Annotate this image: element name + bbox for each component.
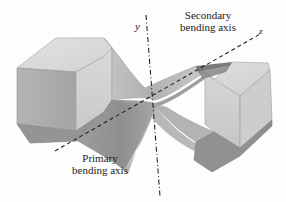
left-block-left-face bbox=[17, 68, 76, 131]
primary-bending-axis-label-line1: Primary bbox=[52, 152, 148, 164]
figure-container: Secondary bending axis Primary bending a… bbox=[0, 0, 286, 202]
secondary-bending-axis-label-line2: bending axis bbox=[160, 21, 256, 33]
primary-bending-axis-label: Primary bending axis bbox=[52, 152, 148, 177]
secondary-bending-axis-label: Secondary bending axis bbox=[160, 9, 256, 34]
secondary-bending-axis-label-line1: Secondary bbox=[160, 9, 256, 21]
y-axis-label: y bbox=[135, 20, 140, 32]
z-axis-label: z bbox=[259, 26, 263, 36]
primary-bending-axis-label-line2: bending axis bbox=[52, 164, 148, 176]
right-block bbox=[194, 62, 272, 172]
neck-upper-surface bbox=[104, 38, 205, 100]
